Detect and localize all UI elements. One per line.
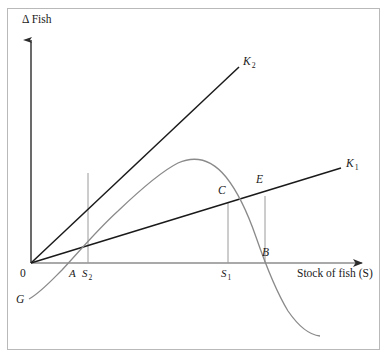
k1-label-text: K (346, 157, 354, 169)
k1-label: K1 (346, 158, 359, 172)
k2-line (31, 67, 239, 263)
k1-label-subscript: 1 (354, 163, 359, 172)
k2-label: K2 (243, 56, 256, 70)
annotation-s1: S1 (221, 268, 231, 282)
annotation-s1-text: S (221, 267, 227, 279)
annotation-c: C (218, 185, 226, 197)
chart-canvas (0, 0, 388, 362)
k2-label-subscript: 2 (251, 61, 256, 70)
k2-label-text: K (243, 55, 251, 67)
annotation-s1-subscript: 1 (227, 273, 232, 282)
annotation-s2-subscript: 2 (88, 273, 93, 282)
annotation-b: B (262, 247, 269, 259)
k1-line (31, 168, 341, 263)
x-axis-label-text: Stock of fish (S) (297, 267, 373, 279)
x-axis-label: Stock of fish (S) (297, 268, 373, 280)
origin-label: 0 (20, 268, 26, 280)
annotation-e: E (256, 174, 263, 186)
annotation-s2-text: S (82, 267, 88, 279)
figure-container: Δ Fish Stock of fish (S) 0 K2 K1 A S2 S1… (0, 0, 388, 362)
y-axis-label: Δ Fish (22, 14, 51, 26)
annotation-s2: S2 (82, 268, 92, 282)
annotation-a: A (69, 268, 76, 279)
annotation-g: G (16, 294, 24, 306)
growth-curve-g (29, 159, 320, 336)
